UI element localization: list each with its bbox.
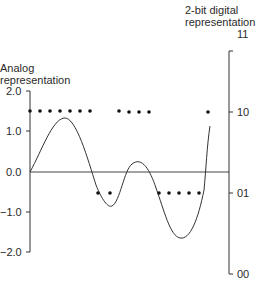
left-tick-1: 1.0 bbox=[6, 125, 21, 137]
left-tick-2: 2.0 bbox=[6, 85, 21, 97]
left-tick-0: 0.0 bbox=[6, 166, 21, 178]
right-tick-01: 01 bbox=[237, 187, 249, 199]
left-tick-neg1: −1.0 bbox=[0, 206, 22, 218]
right-tick-10: 10 bbox=[237, 106, 249, 118]
chart-canvas bbox=[0, 0, 259, 281]
left-axis-title-line1: Analog bbox=[0, 62, 34, 74]
right-tick-00: 00 bbox=[237, 268, 249, 280]
analog-waveform bbox=[30, 118, 210, 238]
right-axis-title-line2: representation bbox=[185, 16, 255, 28]
left-tick-neg2: −2.0 bbox=[0, 246, 22, 258]
right-tick-11: 11 bbox=[237, 28, 248, 40]
digital-samples bbox=[28, 109, 210, 195]
right-axis-title-line1: 2-bit digital bbox=[185, 4, 238, 16]
